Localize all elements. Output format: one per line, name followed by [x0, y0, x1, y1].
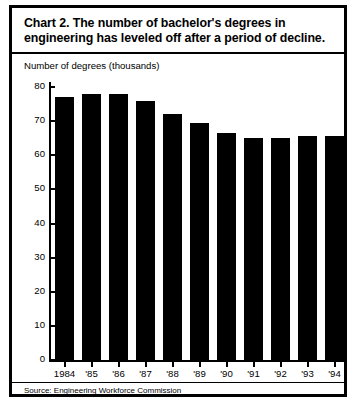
x-axis-tick — [334, 362, 336, 367]
y-axis-tick-label: 40 — [17, 218, 45, 228]
chart-figure: Chart 2. The number of bachelor's degree… — [9, 5, 347, 397]
y-axis-tick-label: 70 — [17, 115, 45, 125]
y-axis-tick-label: 80 — [17, 81, 45, 91]
y-axis-tick-label: 0 — [17, 354, 45, 364]
x-axis-tick — [307, 362, 309, 367]
bar — [217, 133, 237, 360]
source-note: Source: Engineering Workforce Commission — [24, 386, 181, 395]
y-axis-tick-label: 10 — [17, 320, 45, 330]
x-axis-tick-label: '87 — [132, 368, 159, 379]
bar — [55, 97, 75, 360]
x-axis-tick — [199, 362, 201, 367]
plot-area: 010203040506070801984'85'86'87'88'89'90'… — [12, 8, 344, 394]
x-axis-tick-label: '88 — [159, 368, 186, 379]
bar — [136, 101, 156, 360]
x-axis-tick-label: '90 — [213, 368, 240, 379]
x-axis-tick-label: '94 — [321, 368, 347, 379]
x-axis-tick-label: '86 — [105, 368, 132, 379]
x-axis-tick — [64, 362, 66, 367]
x-axis-tick — [145, 362, 147, 367]
y-axis-tick-label: 20 — [17, 286, 45, 296]
x-axis-tick-label: 1984 — [51, 368, 78, 379]
bar — [109, 94, 129, 360]
x-axis-tick — [91, 362, 93, 367]
source-divider — [12, 382, 344, 383]
x-axis-tick-label: '89 — [186, 368, 213, 379]
y-axis-tick-label: 60 — [17, 149, 45, 159]
x-axis-tick-label: '91 — [240, 368, 267, 379]
x-axis-tick — [253, 362, 255, 367]
bar — [271, 138, 291, 360]
x-axis-tick-label: '85 — [78, 368, 105, 379]
y-axis-tick-label: 30 — [17, 252, 45, 262]
x-axis-tick-label: '93 — [294, 368, 321, 379]
x-axis-tick-label: '92 — [267, 368, 294, 379]
y-axis-tick — [49, 86, 55, 88]
x-axis-tick — [172, 362, 174, 367]
x-axis-tick — [226, 362, 228, 367]
bar — [190, 123, 210, 360]
bar — [163, 114, 183, 360]
bar — [82, 94, 102, 360]
bar — [298, 136, 318, 360]
x-axis-tick — [118, 362, 120, 367]
bar — [244, 138, 264, 360]
x-axis-tick — [280, 362, 282, 367]
bar — [325, 136, 345, 360]
y-axis-tick-label: 50 — [17, 183, 45, 193]
